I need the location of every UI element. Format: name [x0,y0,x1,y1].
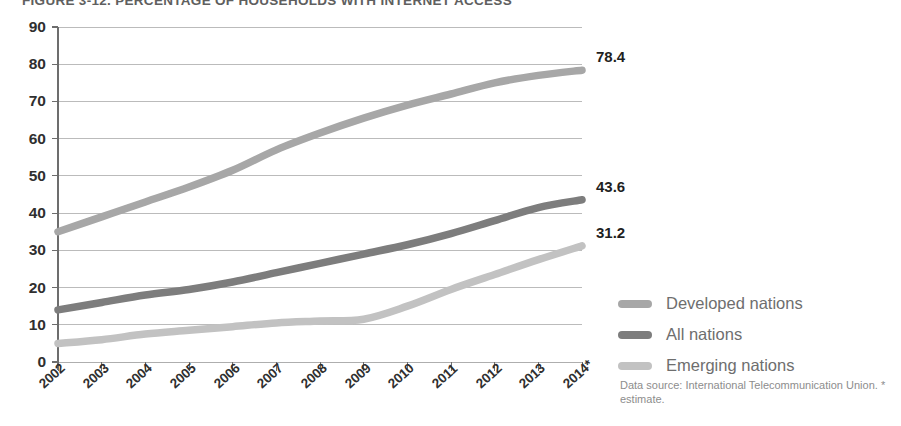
y-tick-label: 40 [6,205,46,221]
y-tick-label: 30 [6,242,46,258]
y-tick-label: 10 [6,317,46,333]
legend-item-label: Developed nations [666,294,803,313]
y-tick-label: 0 [6,354,46,370]
legend-item[interactable]: All nations [618,319,888,350]
all-end-label: 43.6 [596,178,625,195]
chart-legend: Developed nationsAll nationsEmerging nat… [618,288,888,381]
legend-item[interactable]: Developed nations [618,288,888,319]
legend-swatch-icon [618,300,652,308]
y-tick-label: 50 [6,168,46,184]
legend-item-label: Emerging nations [666,356,794,375]
y-tick-label: 70 [6,93,46,109]
series-lines [58,70,582,343]
series-line [58,70,582,232]
gridlines [58,27,582,362]
series-line [58,200,582,310]
developed-end-label: 78.4 [596,48,625,65]
y-tick-label: 20 [6,280,46,296]
legend-item[interactable]: Emerging nations [618,350,888,381]
emerging-end-label: 31.2 [596,224,625,241]
legend-swatch-icon [618,362,652,370]
source-note: Data source: International Telecommunica… [620,378,888,406]
y-tick-label: 60 [6,131,46,147]
y-tick-label: 80 [6,56,46,72]
legend-item-label: All nations [666,325,742,344]
legend-swatch-icon [618,331,652,339]
y-tick-label: 90 [6,19,46,35]
